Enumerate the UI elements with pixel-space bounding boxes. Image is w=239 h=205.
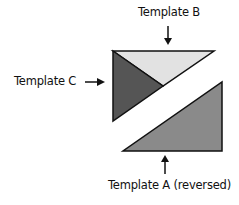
arrow-down-icon [164,26,172,45]
arrow-up-icon [161,155,169,174]
quilt-template-diagram [0,0,239,205]
arrow-right-icon [85,78,105,86]
